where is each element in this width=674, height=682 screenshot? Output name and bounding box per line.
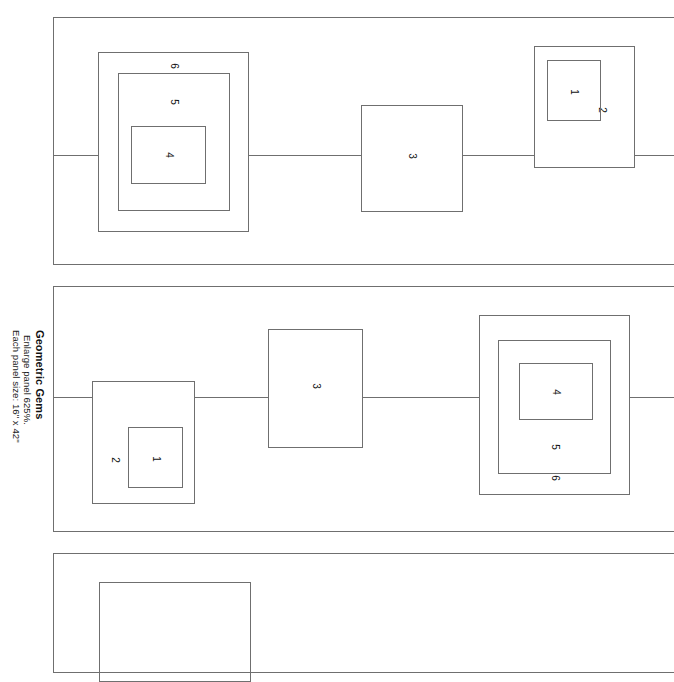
panel-2-rect-6-label: 6 <box>550 475 560 481</box>
panel-2-connector-right <box>630 397 674 398</box>
panel-2-rect-4[interactable]: 4 <box>519 363 593 420</box>
page-title: Geometric Gems <box>33 330 46 500</box>
panel-1-rect-6-label: 6 <box>169 63 179 69</box>
panel-2-rect-1-label: 1 <box>151 456 161 462</box>
panel-1-connector-right <box>635 155 674 156</box>
panel-2-rect-4-label: 4 <box>551 389 561 395</box>
panel-size-note: Each panel size: 16" x 42" <box>10 330 21 500</box>
panel-1-rect-3[interactable]: 3 <box>361 105 463 212</box>
panel-2-rect-2-label: 2 <box>110 457 120 463</box>
enlarge-instruction: Enlarge panel 625%. <box>22 330 33 500</box>
panel-3-rect-outer-partial[interactable] <box>99 582 251 682</box>
panel-2-connector-mid-right <box>363 397 480 398</box>
panel-2-rect-1[interactable]: 1 <box>128 427 183 488</box>
panel-2-rect-3[interactable]: 3 <box>268 329 363 448</box>
panel-2-connector-mid-left <box>195 397 269 398</box>
panel-1-rect-1[interactable]: 1 <box>547 60 601 121</box>
panel-2-rect-5-label: 5 <box>550 444 560 450</box>
panel-1-rect-5-label: 5 <box>169 99 179 105</box>
panel-1-rect-4[interactable]: 4 <box>131 126 206 184</box>
panel-1-connector-left <box>54 155 98 156</box>
panel-1-connector-mid-left <box>249 155 361 156</box>
pattern-caption: Geometric Gems Enlarge panel 625%. Each … <box>0 330 46 500</box>
panel-2-rect-3-label: 3 <box>311 383 321 389</box>
panel-2-connector-left <box>54 397 92 398</box>
panel-1-rect-4-label: 4 <box>164 152 174 158</box>
panel-1-rect-1-label: 1 <box>569 89 579 95</box>
panel-1-rect-3-label: 3 <box>407 153 417 159</box>
panel-1-connector-mid-right <box>463 155 534 156</box>
